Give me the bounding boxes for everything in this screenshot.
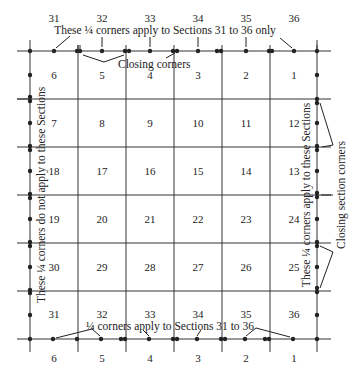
svg-text:3: 3 xyxy=(195,69,201,81)
right-quarter-corners-note: These ¼ corners apply to these Sections xyxy=(300,102,313,287)
svg-text:17: 17 xyxy=(97,165,109,177)
svg-text:24: 24 xyxy=(289,213,301,225)
left-quarter-corners-note: These ¼ corners do not apply to these Se… xyxy=(35,86,48,303)
svg-text:18: 18 xyxy=(49,165,61,177)
svg-text:19: 19 xyxy=(49,213,61,225)
bottom-adjacent-section-labels: 6 5 4 3 2 1 xyxy=(51,352,297,364)
bottom-quarter-corners-note: ¼ corners apply to Sections 31 to 36 xyxy=(86,320,254,333)
svg-text:35: 35 xyxy=(241,12,253,24)
svg-text:9: 9 xyxy=(147,117,153,129)
grid-lines xyxy=(17,40,331,352)
svg-text:15: 15 xyxy=(193,165,205,177)
svg-text:3: 3 xyxy=(195,352,201,364)
svg-text:13: 13 xyxy=(289,165,301,177)
svg-text:12: 12 xyxy=(289,117,300,129)
svg-text:31: 31 xyxy=(49,308,60,320)
svg-text:27: 27 xyxy=(193,261,205,273)
closing-section-corners-note: Closing section corners xyxy=(335,140,348,248)
top-adjacent-section-labels: 31 32 33 34 35 36 xyxy=(49,12,301,24)
svg-text:30: 30 xyxy=(49,261,61,273)
svg-text:14: 14 xyxy=(241,165,253,177)
svg-text:32: 32 xyxy=(97,308,108,320)
closing-corners-note: Closing corners xyxy=(118,58,191,71)
svg-text:1: 1 xyxy=(291,352,297,364)
township-diagram: 31 32 33 34 35 36 6 5 4 3 2 1 6 5 4 3 2 … xyxy=(0,0,359,376)
svg-text:35: 35 xyxy=(241,308,253,320)
svg-text:4: 4 xyxy=(147,352,153,364)
svg-text:22: 22 xyxy=(193,213,204,225)
svg-text:31: 31 xyxy=(49,12,60,24)
svg-text:1: 1 xyxy=(291,69,297,81)
svg-text:10: 10 xyxy=(193,117,205,129)
svg-text:20: 20 xyxy=(97,213,109,225)
svg-text:5: 5 xyxy=(99,69,105,81)
svg-text:5: 5 xyxy=(99,352,105,364)
svg-text:34: 34 xyxy=(193,12,205,24)
svg-text:23: 23 xyxy=(241,213,253,225)
svg-text:25: 25 xyxy=(289,261,301,273)
svg-text:4: 4 xyxy=(147,69,153,81)
svg-text:32: 32 xyxy=(97,12,108,24)
top-quarter-corners-note: These ¼ corners apply to Sections 31 to … xyxy=(54,24,276,37)
svg-text:33: 33 xyxy=(145,12,157,24)
svg-text:33: 33 xyxy=(145,308,157,320)
svg-text:6: 6 xyxy=(51,352,57,364)
svg-text:36: 36 xyxy=(289,308,301,320)
svg-text:26: 26 xyxy=(241,261,253,273)
svg-text:36: 36 xyxy=(289,12,301,24)
svg-text:16: 16 xyxy=(145,165,157,177)
svg-text:29: 29 xyxy=(97,261,109,273)
svg-text:34: 34 xyxy=(193,308,205,320)
svg-text:6: 6 xyxy=(51,69,57,81)
svg-text:2: 2 xyxy=(243,352,249,364)
svg-text:11: 11 xyxy=(241,117,252,129)
svg-text:28: 28 xyxy=(145,261,157,273)
svg-text:8: 8 xyxy=(99,117,105,129)
svg-text:2: 2 xyxy=(243,69,249,81)
svg-text:21: 21 xyxy=(145,213,156,225)
svg-text:7: 7 xyxy=(51,117,57,129)
